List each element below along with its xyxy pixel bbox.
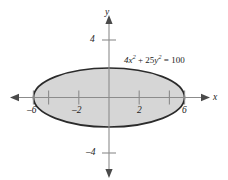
x-axis-left-arrowhead xyxy=(10,94,19,101)
x-tick-label--6: –6 xyxy=(27,106,37,116)
eq-value: 100 xyxy=(171,55,185,65)
eq-equals: = xyxy=(162,55,172,65)
y-tick-label-4: 4 xyxy=(90,35,95,45)
ellipse-equation-label: 4x2 + 25y2 = 100 xyxy=(124,54,185,65)
x-axis-right-arrowhead xyxy=(201,94,210,101)
y-axis-bottom-arrowhead xyxy=(105,169,112,178)
y-axis-label: y xyxy=(105,8,109,18)
eq-plus: + xyxy=(136,55,146,65)
coordinate-plane xyxy=(0,0,228,180)
x-tick-label-6: 6 xyxy=(182,106,187,116)
y-tick-label--4: –4 xyxy=(86,148,96,158)
x-tick-label-2: 2 xyxy=(137,106,142,116)
eq-coef2: 25 xyxy=(145,55,154,65)
x-tick-label--2: –2 xyxy=(72,106,82,116)
x-axis-label: x xyxy=(213,93,217,103)
ellipse-graph-figure: –6 –2 2 6 4 –4 x y 4x2 + 25y2 = 100 xyxy=(0,0,228,180)
